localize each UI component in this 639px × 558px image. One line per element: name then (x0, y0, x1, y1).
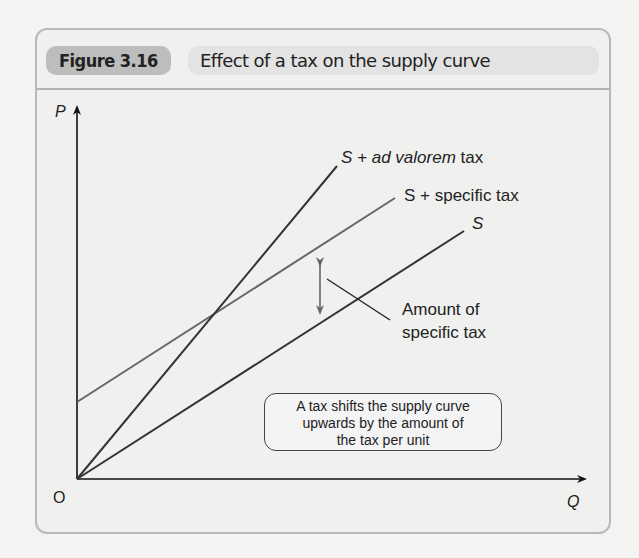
label-tax: tax (456, 148, 483, 167)
label-ad-valorem: ad valorem (372, 148, 456, 167)
tax-amount-annotation: Amount of specific tax (402, 298, 486, 344)
explanation-note: A tax shifts the supply curve upwards by… (264, 393, 502, 451)
label-s: S + (341, 148, 372, 167)
note-line-1: A tax shifts the supply curve (265, 398, 501, 415)
x-axis-label: Q (567, 493, 579, 511)
ad-valorem-label: S + ad valorem tax (341, 148, 483, 168)
supply-label: S (472, 214, 483, 234)
annotation-line-1: Amount of (402, 298, 486, 321)
chart-canvas (0, 0, 639, 558)
note-line-3: the tax per unit (265, 432, 501, 449)
note-line-2: upwards by the amount of (265, 415, 501, 432)
origin-label: O (53, 489, 65, 507)
specific-tax-label: S + specific tax (404, 186, 519, 206)
specific-tax-curve (77, 198, 395, 402)
annotation-line-2: specific tax (402, 321, 486, 344)
y-axis-label: P (55, 103, 66, 121)
